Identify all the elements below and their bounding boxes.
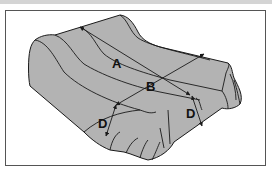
- bedspread-shape: [29, 15, 242, 160]
- label-d-left: D: [98, 116, 107, 131]
- label-b: B: [146, 79, 155, 94]
- label-d-right: D: [186, 106, 195, 121]
- bedspread-diagram: A B D D: [0, 0, 272, 174]
- label-a: A: [112, 56, 122, 71]
